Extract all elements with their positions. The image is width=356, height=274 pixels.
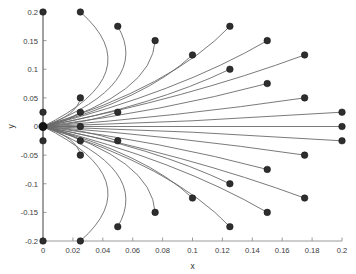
x-tick-label: 0.02 [66,246,81,255]
x-tick-label: 0.08 [155,246,170,255]
trajectory-path [43,41,155,127]
trajectory-path [43,127,155,213]
y-tick-label: -0.05 [21,151,38,160]
x-tick-label: 0.18 [305,246,320,255]
x-axis-title: x [190,261,195,271]
data-point-marker [264,37,271,44]
data-point-marker [227,66,234,73]
data-point-marker [264,166,271,173]
y-tick-label: 0.2 [27,8,38,17]
axis-labels-group: 00.020.040.060.080.10.120.140.160.180.2-… [6,8,347,271]
y-tick-label: -0.2 [25,237,38,246]
trajectory-paths-group [43,12,342,241]
y-tick-label: 0.15 [23,37,38,46]
data-point-marker [339,109,346,116]
data-point-marker [264,209,271,216]
data-point-marker [189,52,196,59]
x-tick-label: 0.12 [215,246,230,255]
trajectory-path [43,41,267,127]
x-tick-label: 0.1 [187,246,198,255]
data-point-marker [152,209,159,216]
data-point-marker [339,138,346,145]
data-point-marker [301,95,308,102]
y-tick-label: 0.05 [23,94,38,103]
data-point-marker [301,52,308,59]
origin-marker [39,122,47,130]
data-point-marker [227,223,234,230]
y-tick-label: 0 [34,122,38,131]
data-point-marker [77,123,84,130]
x-tick-label: 0.06 [125,246,140,255]
data-point-marker [77,152,84,159]
data-point-marker [77,138,84,145]
x-tick-label: 0.16 [275,246,290,255]
scatter-trajectory-plot: 00.020.040.060.080.10.120.140.160.180.2-… [0,0,356,274]
data-point-marker [77,238,84,245]
data-point-marker [114,23,121,30]
chart-figure: 00.020.040.060.080.10.120.140.160.180.2-… [0,0,356,274]
data-point-marker [40,109,47,116]
data-point-marker [152,37,159,44]
data-point-marker [40,138,47,145]
data-point-marker [189,195,196,202]
data-point-marker [227,180,234,187]
data-point-marker [40,9,47,16]
data-point-marker [114,138,121,145]
data-point-marker [40,238,47,245]
data-point-marker [77,9,84,16]
x-tick-label: 0.04 [95,246,110,255]
x-tick-label: 0 [41,246,45,255]
data-point-marker [114,109,121,116]
x-tick-label: 0.2 [337,246,348,255]
data-point-marker [264,80,271,87]
data-point-marker [114,223,121,230]
data-point-marker [301,195,308,202]
data-point-marker [227,23,234,30]
data-point-marker [77,109,84,116]
y-tick-label: 0.1 [27,65,38,74]
data-point-marker [77,95,84,102]
data-point-marker [301,152,308,159]
trajectory-path [43,127,267,213]
y-tick-label: -0.1 [25,180,38,189]
y-axis-title: y [6,124,16,129]
y-tick-label: -0.15 [21,208,38,217]
data-point-marker [339,123,346,130]
x-tick-label: 0.14 [245,246,260,255]
